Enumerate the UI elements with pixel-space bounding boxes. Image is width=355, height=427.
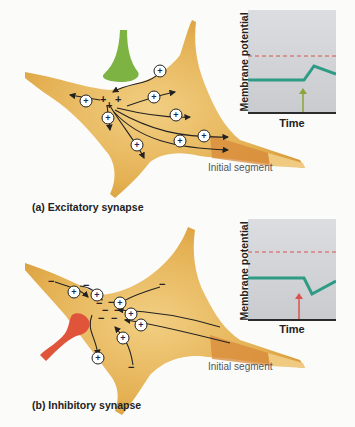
svg-text:+: +	[71, 287, 76, 297]
svg-text:+: +	[177, 136, 182, 146]
svg-text:−: −	[111, 312, 117, 324]
initial-segment-label: Initial segment	[208, 162, 272, 173]
panel-inhibitory: −−− −−− −−− − +++ +++ + Initial segment …	[0, 215, 355, 427]
svg-text:+: +	[105, 113, 110, 123]
svg-text:+: +	[95, 353, 100, 363]
svg-text:+: +	[128, 309, 133, 319]
svg-text:+: +	[201, 131, 206, 141]
svg-text:+: +	[94, 290, 99, 300]
membrane-potential-graph-excitatory: Membrane potential Time	[236, 10, 336, 130]
svg-text:+: +	[151, 92, 156, 102]
potential-trace	[248, 66, 336, 80]
svg-text:+: +	[83, 96, 88, 106]
svg-text:+: +	[106, 99, 112, 111]
membrane-potential-graph-inhibitory: Membrane potential Time	[236, 219, 336, 334]
svg-text:−: −	[128, 361, 134, 373]
svg-text:−: −	[83, 279, 89, 291]
svg-text:+: +	[115, 93, 121, 105]
caption-excitatory: (a) Excitatory synapse	[32, 201, 143, 213]
potential-trace	[248, 278, 336, 294]
initial-segment-label: Initial segment	[208, 361, 272, 372]
svg-text:−: −	[98, 312, 104, 324]
svg-text:+: +	[120, 333, 125, 343]
svg-text:+: +	[134, 140, 139, 150]
graph-y-label: Membrane potential	[238, 12, 250, 112]
svg-text:+: +	[138, 320, 143, 330]
svg-text:+: +	[157, 66, 162, 76]
svg-text:−: −	[159, 278, 165, 290]
caption-inhibitory: (b) Inhibitory synapse	[32, 399, 141, 411]
svg-text:+: +	[117, 298, 122, 308]
presynaptic-terminal-excitatory	[103, 30, 139, 82]
graph-y-label: Membrane potential	[238, 221, 250, 321]
graph-x-label: Time	[248, 323, 336, 335]
svg-text:+: +	[173, 110, 178, 120]
graph-x-label: Time	[248, 117, 336, 129]
panel-excitatory: +++ +++ +++ ++ Initial segment Membrane …	[0, 0, 355, 215]
svg-text:−: −	[48, 275, 54, 287]
